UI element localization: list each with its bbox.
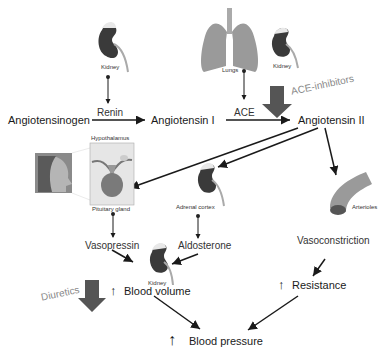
angiotensinogen-label: Angiotensinogen [8,114,90,126]
vasoconstriction-label: Vasoconstriction [297,235,370,246]
increase-icon: ↑ [278,277,285,292]
renin-label: Renin [97,107,123,118]
increase-icon: ↑ [168,331,176,349]
aldosterone-label: Aldosterone [178,240,231,251]
kidney-bottom-icon [150,243,173,285]
lungs-label: Lungs [222,67,238,73]
ace-inhibitor-block-arrow [262,86,292,118]
diagram-canvas [0,0,383,356]
kidney-top-label: Kidney [101,64,119,70]
angiotensin-1-label: Angiotensin I [151,114,215,126]
pituitary-label: Pituitary gland [92,206,130,212]
diuretic-block-arrow [78,280,106,312]
hypothalamus-label: Hypothalamus [91,135,129,141]
ace-label: ACE [234,107,255,118]
angiotensin-2-label: Angiotensin II [298,114,365,126]
face-image [35,148,90,200]
arterioles-label: Arterioles [352,204,377,210]
adrenal-cortex-label: Adrenal cortex [176,204,215,210]
resistance-label: Resistance [292,279,346,291]
kidney-right-icon [272,28,298,68]
kidney-right-label: Kidney [273,63,291,69]
adrenal-kidney-icon [198,163,224,206]
blood-pressure-label: Blood pressure [189,335,263,347]
lungs-icon [201,8,258,72]
vasopressin-label: Vasopressin [85,240,139,251]
blood-volume-label: Blood volume [124,285,191,297]
increase-icon: ↑ [110,283,117,298]
pituitary-image [90,143,134,205]
